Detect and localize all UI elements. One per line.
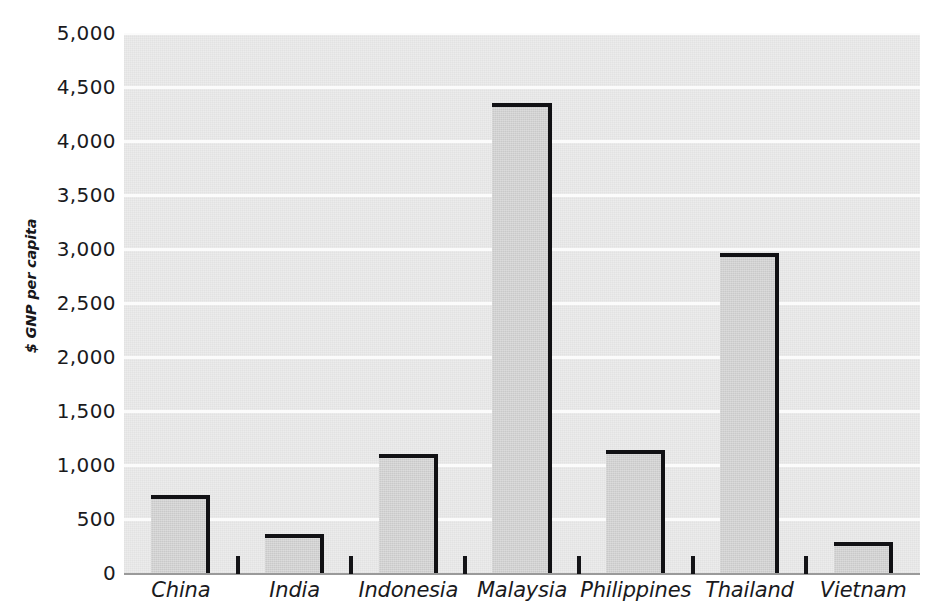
bar — [151, 495, 210, 573]
x-axis-tick — [804, 556, 808, 574]
x-axis-tick — [236, 556, 240, 574]
x-axis-tick-label: India — [269, 578, 320, 602]
y-axis-tick-label: 2,500 — [0, 293, 116, 313]
y-axis-tick-label: 4,000 — [0, 131, 116, 151]
bar — [720, 253, 779, 573]
bar-series-group — [124, 33, 920, 573]
y-axis-tick-label: 5,000 — [0, 23, 116, 43]
y-axis-tick-label: 2,000 — [0, 347, 116, 367]
y-axis-tick-label: 500 — [0, 509, 116, 529]
x-axis-tick-label: Vietnam — [820, 578, 907, 602]
bar-chart-figure: $ GNP per capita 5,0004,5004,0003,5003,0… — [0, 0, 943, 614]
plot-area — [124, 33, 920, 573]
x-axis-tick — [691, 556, 695, 574]
x-axis-tick-label: China — [151, 578, 210, 602]
bar — [379, 454, 438, 573]
y-axis-tick-label: 0 — [0, 563, 116, 583]
x-axis-tick — [463, 556, 467, 574]
bar — [265, 534, 324, 573]
x-axis-tick-label: Thailand — [705, 578, 794, 602]
y-axis-tick-label: 1,000 — [0, 455, 116, 475]
x-axis-tick — [349, 556, 353, 574]
x-axis-tick-label: Malaysia — [477, 578, 567, 602]
bar — [606, 450, 665, 573]
x-axis-line — [124, 573, 920, 575]
y-axis-tick-label: 4,500 — [0, 77, 116, 97]
bar — [834, 542, 893, 573]
x-axis-tick-label: Indonesia — [358, 578, 458, 602]
y-axis-tick-label: 3,000 — [0, 239, 116, 259]
x-axis-tick-label: Philippines — [580, 578, 691, 602]
y-axis-tick-label-group: 5,0004,5004,0003,5003,0002,5002,0001,500… — [0, 0, 116, 614]
y-axis-tick-label: 3,500 — [0, 185, 116, 205]
bar — [492, 103, 551, 573]
y-axis-tick-label: 1,500 — [0, 401, 116, 421]
x-axis-tick — [577, 556, 581, 574]
